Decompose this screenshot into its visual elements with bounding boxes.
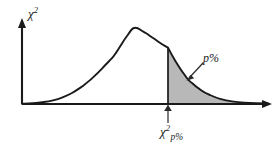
tail-label-leader-line [190, 63, 203, 77]
critical-value-pointer-arrowhead-icon [164, 105, 172, 112]
critical-value-subscript: p% [170, 132, 183, 142]
chi-squared-density-curve [22, 28, 268, 104]
distribution-plot-svg [0, 0, 280, 157]
y-axis-label-exponent: 2 [34, 5, 38, 15]
tail-area-label: p% [203, 52, 219, 64]
critical-value-label: χ2p% [160, 124, 183, 142]
x-axis-arrowhead-icon [262, 100, 272, 108]
chi-squared-distribution-figure: χ2 p% χ2p% [0, 0, 280, 157]
y-axis-arrowhead-icon [18, 18, 26, 28]
y-axis-label: χ2 [28, 6, 38, 20]
